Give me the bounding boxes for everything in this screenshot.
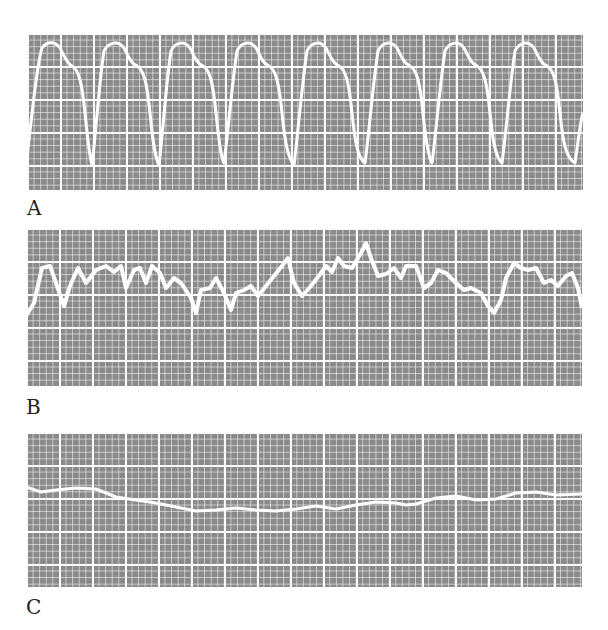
trace-panel-c [26, 432, 582, 587]
panel-label-c: C [26, 595, 41, 619]
panel-label-b: B [26, 395, 41, 419]
waveform-b [26, 228, 582, 386]
trace-panel-b [26, 228, 582, 386]
waveform-c [26, 432, 582, 587]
panel-label-a: A [27, 196, 41, 220]
trace-panel-a [27, 33, 583, 190]
waveform-a [27, 33, 583, 190]
